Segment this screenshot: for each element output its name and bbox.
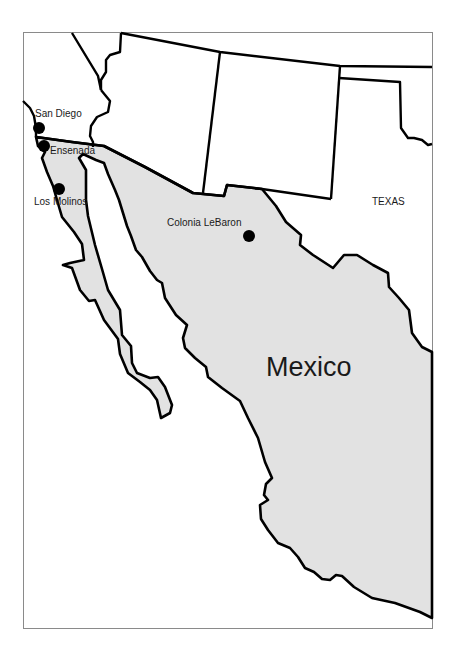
city-label-ensenada: Ensenada [50, 146, 95, 156]
region-label-texas: TEXAS [372, 197, 405, 207]
city-label-los-molinos: Los Molinos [34, 197, 87, 207]
city-label-san-diego: San Diego [35, 109, 82, 119]
city-marker-ensenada [38, 140, 50, 152]
city-marker-los-molinos [53, 183, 65, 195]
city-marker-san-diego [33, 122, 45, 134]
map-svg [0, 0, 455, 656]
city-label-colonia-lebaron: Colonia LeBaron [167, 218, 242, 228]
country-label-mexico: Mexico [266, 354, 352, 381]
map: San Diego Ensenada Los Molinos Colonia L… [0, 0, 455, 656]
city-marker-colonia-lebaron [243, 230, 255, 242]
